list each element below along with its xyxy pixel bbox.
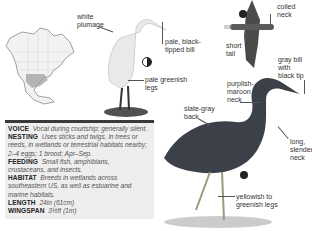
leader-line [245, 30, 246, 42]
leader-line [304, 80, 305, 94]
flight-icon [240, 171, 248, 179]
leader-line [128, 80, 144, 81]
label-heron-neck-shape: long, slender neck [290, 138, 312, 162]
info-nesting: NESTING Uses sticks and twigs, in trees … [8, 133, 151, 141]
label-heron-legs: yellowish to greenish legs [236, 193, 278, 209]
range-map [4, 24, 80, 106]
info-voice: VOICE Vocal during courtship; generally … [8, 125, 151, 133]
flight-icon [239, 10, 247, 18]
label-short-tail: short tail [226, 42, 242, 58]
info-feeding: FEEDING Small fish, amphibians, [8, 158, 151, 166]
leader-line [162, 22, 163, 44]
info-habitat: HABITAT Breeds in wetlands across [8, 174, 151, 182]
flight-illustration [224, 0, 276, 70]
label-egret-bill: pale, black- tipped bill [165, 38, 201, 54]
leader-line [218, 196, 235, 197]
species-info-box: VOICE Vocal during courtship; generally … [5, 123, 154, 219]
moon-half-icon [142, 57, 152, 67]
label-heron-neck-color: purplish- maroon neck [227, 80, 254, 104]
info-length: LENGTH 24in (61cm) [8, 199, 151, 207]
leader-line [240, 102, 260, 103]
label-coiled-neck: coiled neck [277, 3, 295, 19]
north-america-map-icon [4, 24, 80, 106]
info-wingspan: WINGSPAN 3½ft (1m) [8, 207, 151, 215]
leader-line [270, 14, 271, 28]
label-heron-bill: gray bill with black tip [278, 56, 304, 80]
